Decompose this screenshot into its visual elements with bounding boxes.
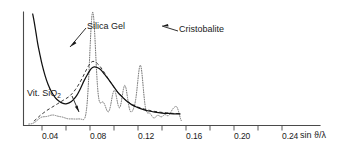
annotation-leader-vit-sio2 [72, 96, 79, 112]
xrd-diffraction-figure: 0.04 0.08 0.12 0.16 0.20 0.24 sin ϑ/λ Si… [0, 0, 348, 150]
series-label-vit-sio2-subscript: 2 [57, 92, 61, 99]
annotation-leader-cristobalite [162, 24, 178, 31]
annotation-leader-silica-gel [70, 28, 86, 47]
x-tick-label-2: 0.12 [124, 131, 152, 141]
x-tick-label-5: 0.24 [268, 131, 296, 141]
x-tick-label-1: 0.08 [76, 131, 104, 141]
series-label-vit-sio2: Vit. SiO2 [27, 88, 61, 99]
series-label-cristobalite: Cristobalite [179, 24, 224, 34]
x-tick-label-3: 0.16 [172, 131, 200, 141]
x-axis-title: sin ϑ/λ [300, 130, 326, 140]
x-axis-ticks [42, 126, 282, 131]
plot-canvas [0, 0, 348, 150]
x-tick-label-0: 0.04 [28, 131, 56, 141]
series-label-vit-sio2-text: Vit. SiO [27, 88, 57, 98]
x-tick-label-4: 0.20 [220, 131, 248, 141]
series-label-silica-gel: Silica Gel [87, 21, 125, 31]
